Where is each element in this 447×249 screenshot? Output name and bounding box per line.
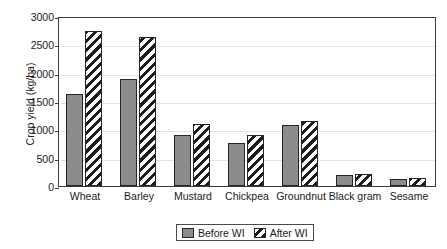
y-tick-label: 2000: [20, 69, 54, 79]
legend-label: After WI: [270, 228, 308, 238]
bar-after-wi: [193, 124, 210, 186]
bar-before-wi: [228, 143, 245, 186]
bar-after-wi: [85, 31, 102, 186]
bar-after-wi: [139, 37, 156, 186]
bar-after-wi: [355, 174, 372, 186]
bars-layer: [59, 18, 435, 186]
bar-group: [275, 18, 329, 186]
bar-before-wi: [66, 94, 83, 186]
bar-group: [221, 18, 275, 186]
bar-before-wi: [336, 175, 353, 186]
x-axis-label: Sesame: [390, 190, 429, 202]
y-tick-label: 0: [20, 182, 54, 192]
x-axis-label: Barley: [124, 190, 154, 202]
bar-after-wi: [301, 121, 318, 186]
plot-area: [58, 17, 436, 187]
y-tick-label: 3000: [20, 12, 54, 22]
legend-swatch-after-wi: [254, 228, 266, 238]
bar-after-wi: [247, 135, 264, 186]
x-axis-label: Chickpea: [225, 190, 269, 202]
legend-entry: After WI: [254, 228, 308, 238]
x-axis-label: Groundnut: [276, 190, 326, 202]
x-axis-label: Mustard: [174, 190, 212, 202]
bar-before-wi: [174, 135, 191, 186]
bar-before-wi: [390, 179, 407, 186]
bar-group: [59, 18, 113, 186]
bar-chart: Crop yield (kg/ha) 300025002000150010005…: [0, 0, 447, 249]
chart-legend: Before WIAfter WI: [176, 224, 314, 241]
bar-after-wi: [409, 178, 426, 187]
x-axis-label: Black gram: [329, 190, 382, 202]
legend-swatch-before-wi: [182, 228, 194, 238]
y-tick-label: 1500: [20, 97, 54, 107]
bar-group: [167, 18, 221, 186]
legend-entry: Before WI: [182, 228, 245, 238]
y-tick-label: 500: [20, 154, 54, 164]
bar-group: [329, 18, 383, 186]
y-tick-label: 2500: [20, 40, 54, 50]
x-axis-label: Wheat: [70, 190, 100, 202]
y-tick-label: 1000: [20, 125, 54, 135]
bar-group: [113, 18, 167, 186]
y-axis-tick-labels: 300025002000150010005000: [18, 0, 54, 249]
bar-before-wi: [120, 79, 137, 186]
legend-label: Before WI: [198, 228, 245, 238]
x-axis-category-labels: WheatBarleyMustardChickpeaGroundnutBlack…: [58, 190, 436, 210]
y-tick-mark: [55, 188, 59, 189]
bar-group: [383, 18, 437, 186]
bar-before-wi: [282, 125, 299, 186]
